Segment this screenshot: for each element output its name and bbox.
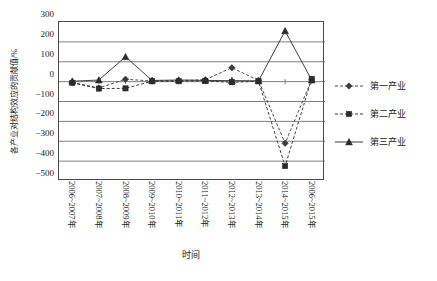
x-axis-tick-label-wrap: 2009~2010年: [144, 181, 158, 247]
data-point-marker: [123, 86, 128, 91]
x-axis-tick-label-wrap: 2014~2015年: [277, 181, 291, 247]
y-axis-tick-label: 0: [10, 69, 54, 78]
chart-legend: 第一产业第二产业第三产业: [334, 72, 434, 156]
y-axis-tick-label: −300: [10, 129, 54, 138]
legend-item[interactable]: 第三产业: [334, 128, 434, 156]
x-axis-tick-label: 2009~2010年: [147, 181, 156, 229]
x-axis-tick-label-wrap: 2013~2014年: [251, 181, 265, 247]
y-axis-tick-label: −500: [10, 169, 54, 178]
x-axis-tick-labels: 2006~2007年2007~2008年2008~2009年2009~2010年…: [58, 181, 324, 247]
data-point-marker: [283, 163, 288, 168]
data-point-marker: [122, 53, 129, 59]
x-axis-title: 时间: [58, 250, 324, 261]
chart-figure: 各产业对结构效应的贡献值/% 3002001000−100−200−300−40…: [0, 0, 437, 281]
x-axis-tick-label-wrap: 2007~2008年: [91, 181, 105, 247]
legend-key-triangle-icon: [334, 135, 364, 149]
x-axis-tick-label: 2007~2008年: [93, 181, 102, 229]
data-point-marker: [96, 86, 101, 91]
x-axis-tick-label: 2012~2013年: [226, 181, 235, 229]
y-axis-tick-label: 100: [10, 49, 54, 58]
legend-key-diamond-icon: [334, 79, 364, 93]
legend-label: 第三产业: [364, 137, 406, 147]
data-point-marker: [282, 28, 289, 34]
y-axis-tick-label: −200: [10, 109, 54, 118]
legend-label: 第一产业: [364, 81, 406, 91]
y-axis-tick-label: 300: [10, 10, 54, 19]
legend-item[interactable]: 第二产业: [334, 100, 434, 128]
series-line: [72, 31, 311, 81]
x-axis-tick-label-wrap: 2008~2009年: [118, 181, 132, 247]
series-group: [70, 76, 315, 168]
data-point-marker: [346, 111, 351, 116]
x-axis-tick-label: 2006~2007年: [67, 181, 76, 229]
x-axis-tick-label: 2011~2012年: [200, 181, 209, 228]
legend-label: 第二产业: [364, 109, 406, 119]
x-axis-tick-label-wrap: 2006~2007年: [64, 181, 78, 247]
series-canvas: [59, 22, 325, 181]
legend-item[interactable]: 第一产业: [334, 72, 434, 100]
plot-area: [58, 21, 324, 180]
series-group: [69, 28, 315, 85]
series-line: [72, 68, 311, 144]
series-group: [69, 65, 315, 147]
x-axis-tick-label-wrap: 2011~2012年: [197, 181, 211, 247]
x-axis-tick-label: 2014~2015年: [280, 181, 289, 229]
x-axis-tick-label-wrap: 2006~2015年: [304, 181, 318, 247]
series-line: [72, 79, 311, 166]
x-axis-tick-label: 2008~2009年: [120, 181, 129, 229]
data-point-marker: [229, 65, 235, 71]
x-axis-tick-label: 2013~2014年: [253, 181, 262, 229]
legend-key-square-icon: [334, 107, 364, 121]
x-axis-tick-label: 2006~2015年: [306, 181, 315, 229]
y-axis-tick-labels: 3002001000−100−200−300−400−500: [10, 14, 54, 194]
x-axis-tick-label-wrap: 2012~2013年: [224, 181, 238, 247]
y-axis-tick-label: −400: [10, 149, 54, 158]
y-axis-tick-label: −100: [10, 89, 54, 98]
data-point-marker: [346, 83, 352, 89]
x-axis-tick-label-wrap: 2010~2011年: [171, 181, 185, 247]
y-axis-tick-label: 200: [10, 29, 54, 38]
x-axis-tick-label: 2010~2011年: [173, 181, 182, 228]
